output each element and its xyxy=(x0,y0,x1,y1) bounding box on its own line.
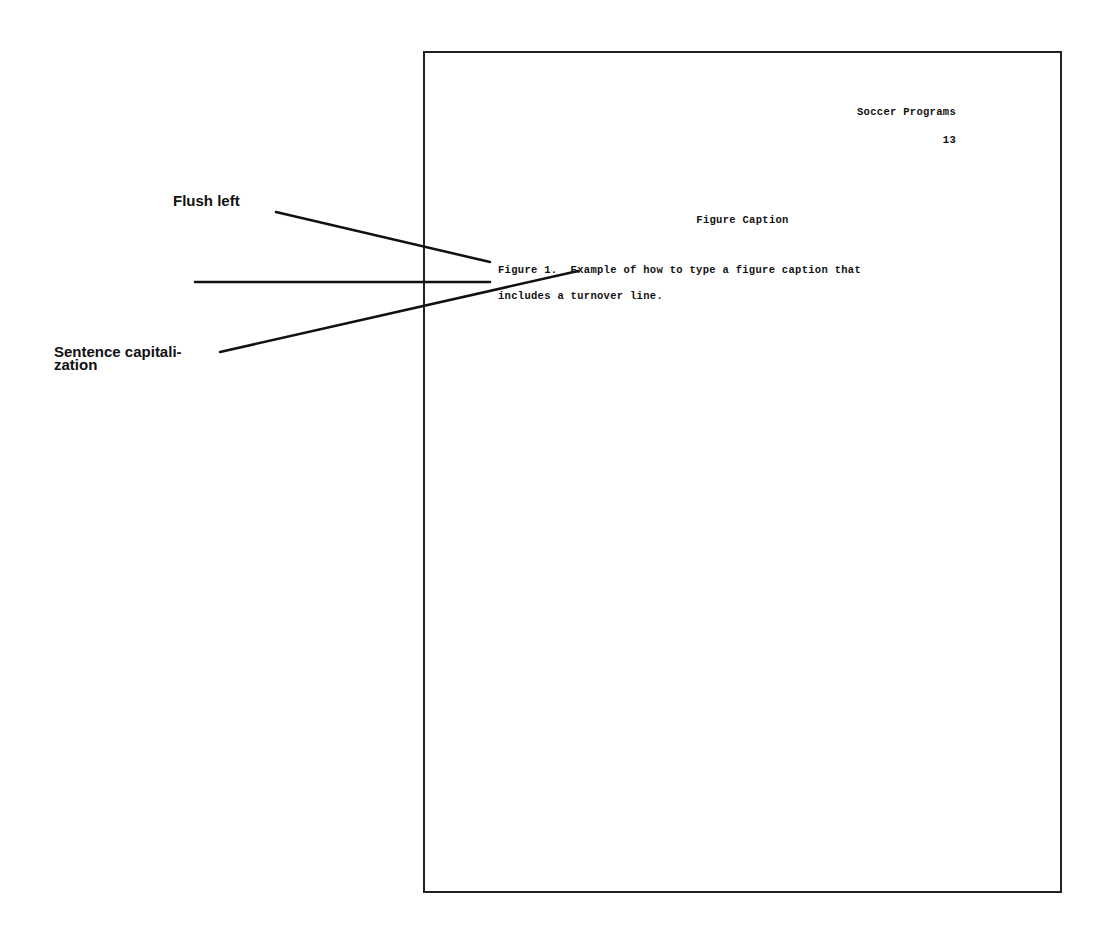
figure-caption-heading: Figure Caption xyxy=(425,214,1060,226)
annotation-flush-left: Flush left xyxy=(173,194,240,207)
manuscript-page: Soccer Programs 13 Figure Caption Figure… xyxy=(423,51,1062,893)
annotation-sentence-capitalization: Sentence capitali- zation xyxy=(54,345,182,371)
figure-caption-line-1: Figure 1. Example of how to type a figur… xyxy=(498,264,861,276)
figure-caption-turnover-line: includes a turnover line. xyxy=(498,290,663,302)
running-head: Soccer Programs xyxy=(857,106,956,118)
page-number: 13 xyxy=(943,134,956,146)
